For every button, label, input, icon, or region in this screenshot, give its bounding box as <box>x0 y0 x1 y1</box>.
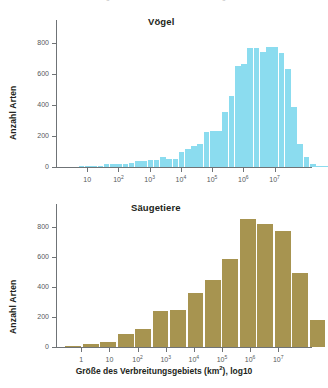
x-tick-mammals <box>194 348 195 352</box>
x-tick-birds <box>150 168 151 172</box>
x-tick-label-birds: 104 <box>176 176 187 183</box>
bar-mammals <box>240 219 256 347</box>
bar-birds <box>79 166 85 167</box>
bar-birds <box>204 132 210 167</box>
y-tick-label-birds: 400 <box>37 101 49 108</box>
bar-mammals <box>153 311 169 347</box>
bar-birds <box>222 112 228 167</box>
y-tick-label-mammals: 200 <box>37 313 49 320</box>
bar-mammals <box>310 320 326 347</box>
bar-birds <box>291 107 297 167</box>
bar-birds <box>160 157 166 167</box>
y-tick-mammals: 600 <box>52 257 56 258</box>
x-tick-birds <box>243 168 244 172</box>
x-tick-mammals <box>109 348 110 352</box>
y-tick-mammals: 800 <box>52 227 56 228</box>
bar-birds <box>141 161 147 167</box>
x-axis-caption-prefix: Größe des Verbreitungsgebiets (km <box>76 366 220 376</box>
bar-mammals <box>292 273 308 347</box>
bar-mammals <box>170 310 186 347</box>
bar-mammals <box>205 280 221 347</box>
y-tick-birds: 800 <box>52 43 56 44</box>
y-tick-label-birds: 600 <box>37 70 49 77</box>
y-axis-label-mammals: Anzahl Arten <box>8 279 18 334</box>
bar-birds <box>148 160 154 167</box>
bar-birds <box>260 52 266 167</box>
x-tick-label-birds: 103 <box>144 176 155 183</box>
x-tick-birds <box>118 168 119 172</box>
x-tick-mammals <box>138 348 139 352</box>
bar-mammals <box>188 293 204 347</box>
bar-series-mammals <box>57 204 312 347</box>
x-tick-birds <box>87 168 88 172</box>
bar-birds <box>123 164 129 167</box>
bar-birds <box>91 166 97 167</box>
bar-birds <box>166 159 172 167</box>
x-tick-label-mammals: 105 <box>217 356 228 363</box>
x-tick-birds <box>275 168 276 172</box>
y-axis-label-birds: Anzahl Arten <box>8 85 18 140</box>
x-tick-label-mammals: 102 <box>132 356 143 363</box>
x-tick-label-mammals: 10 <box>106 356 114 363</box>
x-tick-label-birds: 105 <box>207 176 218 183</box>
y-tick-label-birds: 200 <box>37 132 49 139</box>
x-tick-label-mammals: 103 <box>160 356 171 363</box>
x-tick-mammals <box>166 348 167 352</box>
bar-birds <box>85 166 91 167</box>
bar-birds <box>279 53 285 167</box>
x-tick-label-birds: 10 <box>83 176 91 183</box>
y-tick-label-mammals: 600 <box>37 253 49 260</box>
x-tick-label-birds: 107 <box>269 176 280 183</box>
bar-mammals <box>135 329 151 347</box>
bar-birds <box>129 163 135 167</box>
y-tick-label-mammals: 400 <box>37 283 49 290</box>
bar-mammals <box>118 334 134 347</box>
bar-birds <box>310 164 316 167</box>
y-tick-birds: 600 <box>52 74 56 75</box>
plot-area-mammals: 0200400600800110102103104105106107 <box>56 204 312 348</box>
bar-birds <box>285 69 291 167</box>
bar-birds <box>322 166 328 167</box>
bar-mammals <box>83 344 99 347</box>
bar-birds <box>154 160 160 167</box>
bar-birds <box>254 48 260 167</box>
bar-birds <box>229 96 235 167</box>
x-tick-label-mammals: 106 <box>245 356 256 363</box>
bar-birds <box>104 164 110 167</box>
y-tick-mammals: 400 <box>52 287 56 288</box>
bar-birds <box>304 157 310 167</box>
bar-mammals <box>275 231 291 347</box>
bar-birds <box>135 161 141 167</box>
y-tick-birds: 0 <box>52 167 56 168</box>
x-tick-label-mammals: 1 <box>79 356 83 363</box>
y-tick-label-mammals: 800 <box>37 223 49 230</box>
bar-birds <box>266 47 272 167</box>
x-tick-birds <box>181 168 182 172</box>
bar-birds <box>179 152 185 167</box>
bar-birds <box>297 144 303 167</box>
x-tick-mammals <box>222 348 223 352</box>
y-tick-birds: 400 <box>52 105 56 106</box>
bar-birds <box>241 64 247 167</box>
x-tick-label-mammals: 104 <box>189 356 200 363</box>
y-tick-label-birds: 0 <box>45 163 49 170</box>
bar-mammals <box>100 342 116 347</box>
bar-mammals <box>65 346 81 347</box>
figure-species-range-size: g g Vögel Anzahl Arten 02004006008001010… <box>0 0 328 388</box>
bar-birds <box>210 131 216 167</box>
bar-birds <box>110 164 116 167</box>
x-axis-caption: Größe des Verbreitungsgebiets (km2), log… <box>0 366 328 376</box>
panel-birds: Vögel Anzahl Arten 020040060080010102103… <box>0 6 328 192</box>
x-tick-mammals <box>81 348 82 352</box>
bar-birds <box>185 149 191 167</box>
bar-birds <box>173 159 179 167</box>
bar-birds <box>197 144 203 167</box>
x-tick-label-mammals: 107 <box>273 356 284 363</box>
x-tick-birds <box>212 168 213 172</box>
bar-birds <box>116 164 122 167</box>
x-tick-mammals <box>250 348 251 352</box>
x-tick-mammals <box>278 348 279 352</box>
bar-birds <box>98 166 104 167</box>
bar-birds <box>191 146 197 167</box>
bar-series-birds <box>57 20 312 167</box>
